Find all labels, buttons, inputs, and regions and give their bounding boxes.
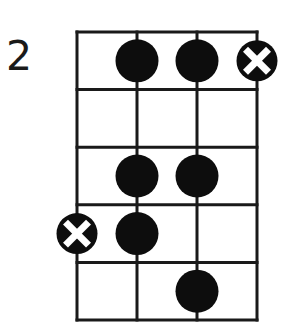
note-dot-icon — [116, 39, 159, 82]
note-dot-icon — [176, 155, 219, 198]
fretboard-grid — [0, 0, 287, 329]
note-dot-icon — [176, 270, 219, 313]
x-mark-icon — [237, 40, 278, 81]
x-mark-icon — [57, 213, 98, 254]
note-dot-icon — [116, 155, 159, 198]
grid-lines — [77, 32, 257, 320]
note-dot-icon — [176, 39, 219, 82]
note-dot-icon — [116, 212, 159, 255]
note-markers — [57, 39, 278, 312]
